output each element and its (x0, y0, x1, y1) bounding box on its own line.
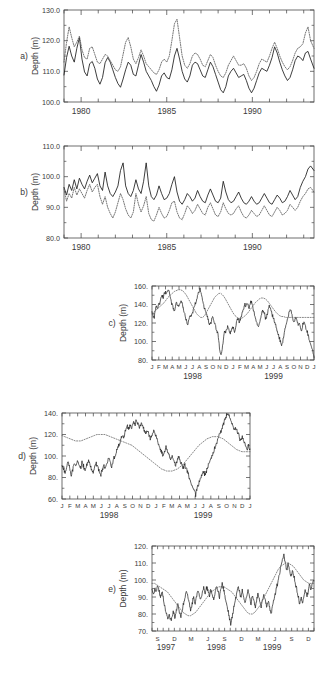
series-observed (62, 414, 250, 497)
y-tick-label: 100. (134, 576, 148, 585)
month-tick-label: D (239, 635, 244, 642)
year-label: 1999 (264, 371, 283, 381)
month-tick-label: J (265, 363, 268, 370)
y-tick-label: 160. (134, 282, 148, 291)
month-tick-label: M (185, 502, 190, 509)
y-tick-label: 80. (138, 610, 148, 619)
month-tick-label: J (154, 502, 157, 509)
month-tick-label: M (176, 363, 181, 370)
month-tick-label: A (209, 502, 214, 509)
month-tick-label: F (68, 502, 72, 509)
month-tick-label: J (60, 502, 63, 509)
chart-c: 80.100.120.140.160.JFMAMJJASONDJFMAMJJAS… (0, 278, 322, 402)
year-label: 1997 (157, 642, 176, 652)
year-label: 1999 (263, 642, 282, 652)
y-tick-label: 90. (138, 593, 148, 602)
month-tick-label: J (194, 502, 197, 509)
month-tick-label: F (157, 363, 161, 370)
series-climatology (64, 184, 314, 221)
panel-e: 70.80.90.100.110.120.SDMJSDMJSD199719981… (0, 538, 322, 674)
y-tick-label: 120. (134, 542, 148, 551)
month-tick-label: M (257, 363, 262, 370)
y-axis-label: Depth (m) (30, 173, 40, 211)
x-tick-label: 1980 (72, 242, 91, 252)
month-tick-label: O (224, 502, 229, 509)
month-tick-label: S (156, 635, 160, 642)
series-observed (152, 554, 314, 626)
y-tick-label: 120. (134, 319, 148, 328)
month-tick-label: S (285, 363, 289, 370)
panel-letter: e) (108, 584, 116, 594)
month-tick-label: S (217, 502, 221, 509)
month-tick-label: O (210, 363, 215, 370)
year-label: 1998 (183, 371, 202, 381)
y-tick-label: 80. (48, 473, 58, 482)
month-tick-label: A (278, 363, 283, 370)
month-tick-label: O (130, 502, 135, 509)
month-tick-label: N (217, 363, 221, 370)
panel-letter: c) (108, 318, 115, 328)
month-tick-label: J (184, 363, 187, 370)
plot-frame (64, 146, 314, 238)
month-tick-label: N (298, 363, 302, 370)
y-tick-label: 90.0 (46, 203, 60, 212)
chart-d: 60.80.100.120.140.JFMAMJJASONDJFMAMJJASO… (0, 403, 322, 537)
chart-b: 80.090.0100.0110.0198019851990Depth (m)b… (0, 138, 322, 276)
series-observed (64, 163, 314, 204)
panel-a: 100.0110.0120.0130.0198019851990Depth (m… (0, 0, 322, 136)
month-tick-label: J (273, 635, 276, 642)
month-tick-label: J (206, 635, 209, 642)
month-tick-label: N (138, 502, 142, 509)
panel-c: 80.100.120.140.160.JFMAMJJASONDJFMAMJJAS… (0, 278, 322, 402)
year-label: 1999 (194, 510, 213, 520)
y-tick-label: 100.0 (42, 172, 60, 181)
month-tick-label: D (146, 502, 151, 509)
y-tick-label: 70. (138, 627, 148, 636)
month-tick-label: F (162, 502, 166, 509)
panel-letter: a) (20, 51, 28, 61)
month-tick-label: M (244, 363, 249, 370)
month-tick-label: A (83, 502, 88, 509)
month-tick-label: D (224, 363, 229, 370)
panel-d: 60.80.100.120.140.JFMAMJJASONDJFMAMJJASO… (0, 403, 322, 537)
y-tick-label: 80. (138, 356, 148, 365)
y-tick-label: 130.0 (42, 6, 60, 15)
y-tick-label: 120. (44, 430, 58, 439)
month-tick-label: D (306, 635, 311, 642)
y-axis-label: Depth (m) (30, 37, 40, 75)
plot-frame (62, 413, 250, 499)
y-tick-label: 100.0 (42, 98, 60, 107)
plot-frame (152, 286, 314, 360)
y-tick-label: 100. (134, 337, 148, 346)
year-label: 1998 (100, 510, 119, 520)
series-observed (152, 288, 314, 357)
y-tick-label: 110. (135, 559, 148, 568)
chart-a: 100.0110.0120.0130.0198019851990Depth (m… (0, 0, 322, 136)
month-tick-label: D (240, 502, 245, 509)
y-tick-label: 140. (44, 409, 58, 418)
y-tick-label: 110.0 (43, 67, 60, 76)
panel-letter: b) (20, 187, 28, 197)
month-tick-label: M (189, 635, 194, 642)
x-tick-label: 1980 (72, 106, 91, 116)
y-axis-label: Depth (m) (118, 569, 128, 607)
month-tick-label: O (291, 363, 296, 370)
y-tick-label: 60. (48, 495, 58, 504)
x-tick-label: 1990 (243, 242, 262, 252)
y-axis-label: Depth (m) (118, 304, 128, 342)
month-tick-label: J (248, 502, 251, 509)
month-tick-label: J (191, 363, 194, 370)
month-tick-label: A (170, 363, 175, 370)
month-tick-label: F (238, 363, 242, 370)
chart-e: 70.80.90.100.110.120.SDMJSDMJSD199719981… (0, 538, 322, 674)
month-tick-label: J (201, 502, 204, 509)
month-tick-label: J (150, 363, 153, 370)
month-tick-label: N (232, 502, 236, 509)
plot-frame (64, 10, 314, 102)
month-tick-label: D (172, 635, 177, 642)
month-tick-label: J (312, 363, 315, 370)
month-tick-label: A (115, 502, 120, 509)
month-tick-label: S (123, 502, 127, 509)
month-tick-label: J (107, 502, 110, 509)
series-climatology (152, 290, 314, 319)
